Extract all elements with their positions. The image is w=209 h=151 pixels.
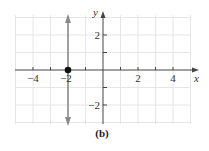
x-tick-label-neg4: −4 [27, 72, 39, 84]
y-axis [101, 11, 108, 124]
arrow-down-icon [65, 117, 71, 126]
y-axis-arrow-icon [101, 11, 106, 18]
x-tick-label-4: 4 [170, 72, 176, 84]
x-tick-label-neg2: −2 [60, 72, 72, 84]
x-tick-label-2: 2 [135, 72, 141, 84]
y-axis-label: y [92, 6, 98, 18]
y-tick-label-neg2: −2 [88, 99, 100, 111]
y-tick-label-2: 2 [95, 29, 101, 41]
figure-caption: (b) [95, 127, 109, 140]
graph: −4 −2 2 4 2 −2 y x (b) [0, 0, 209, 151]
arrow-up-icon [65, 14, 71, 23]
x-axis-label: x [193, 72, 199, 84]
